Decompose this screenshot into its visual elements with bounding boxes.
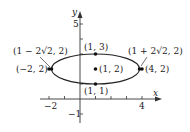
point-vertex-left bbox=[50, 67, 54, 71]
label-vertex-left: (1 − 2√2, 2) bbox=[13, 46, 68, 56]
point-center bbox=[94, 67, 98, 71]
label-point-bottom: (1, 1) bbox=[84, 86, 108, 96]
data-points bbox=[47, 52, 144, 86]
point-vertex-right bbox=[138, 67, 142, 71]
ellipse-figure: −2 4 x 5 −1 y bbox=[0, 0, 190, 132]
plot-canvas: −2 4 x 5 −1 y bbox=[0, 0, 190, 132]
label-point-left: (−2, 2) bbox=[16, 64, 48, 74]
x-tick-label: 4 bbox=[139, 101, 145, 111]
y-tick-label: −1 bbox=[68, 109, 81, 119]
label-point-top: (1, 3) bbox=[84, 42, 108, 52]
y-axis-label: y bbox=[71, 7, 78, 17]
point-top bbox=[94, 52, 98, 56]
label-vertex-right: (1 + 2√2, 2) bbox=[128, 46, 183, 56]
x-axis-label: x bbox=[153, 88, 158, 98]
label-point-center: (1, 2) bbox=[99, 64, 123, 74]
y-axis: 5 −1 y bbox=[68, 7, 83, 123]
y-axis-arrow-icon bbox=[78, 11, 83, 18]
y-tick-label: 5 bbox=[73, 19, 79, 29]
x-tick-label: −2 bbox=[44, 101, 57, 111]
label-point-right: (4, 2) bbox=[145, 64, 169, 74]
